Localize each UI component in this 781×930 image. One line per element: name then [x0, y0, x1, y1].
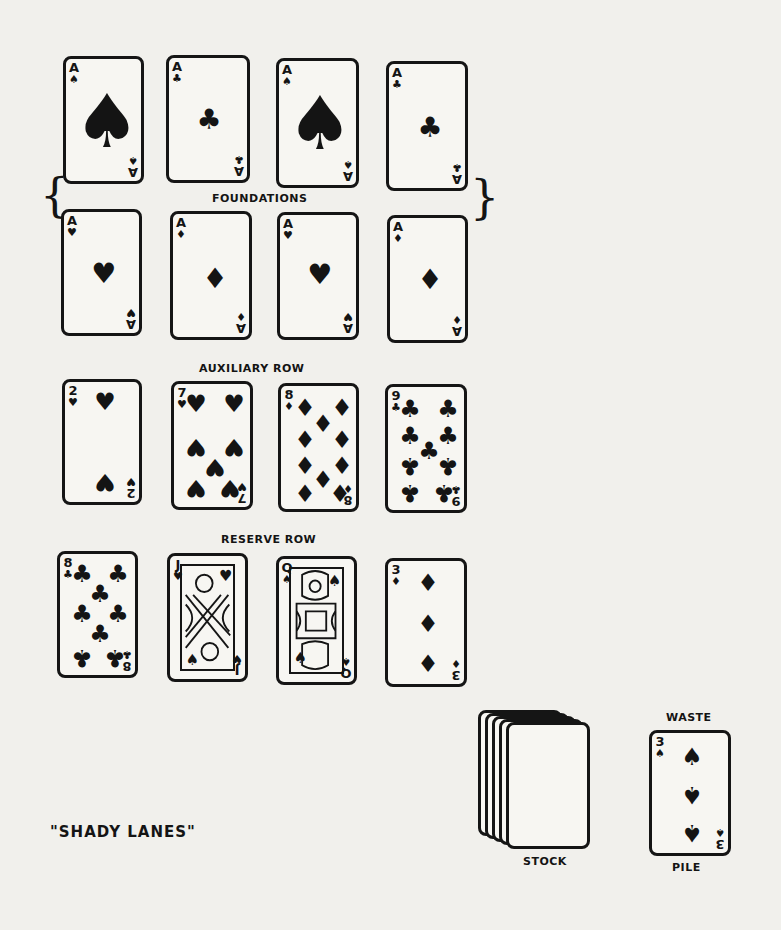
club-icon: ♣	[434, 454, 462, 478]
reserve-row-label: RESERVE ROW	[221, 533, 316, 546]
club-icon: ♣	[68, 646, 96, 670]
svg-text:♥: ♥	[219, 567, 232, 585]
auxiliary-card-2-hearts[interactable]: 2♥ ♥ ♥ 2♥	[62, 379, 142, 505]
diamond-icon: ♦	[291, 482, 319, 506]
foundation-card-ace-hearts-1[interactable]: A♥ ♥ A♥	[61, 209, 142, 336]
stock-label: STOCK	[523, 855, 567, 868]
heart-icon: ♥	[182, 476, 210, 500]
reserve-card-3-diamonds[interactable]: 3♦ ♦ ♦ ♦ 3♦	[385, 558, 467, 687]
club-icon: ♣	[416, 116, 444, 140]
waste-label: WASTE	[666, 711, 712, 724]
club-icon: ♣	[434, 397, 462, 421]
heart-icon: ♥	[220, 392, 248, 416]
game-title: "SHADY LANES"	[50, 823, 196, 841]
club-icon: ♣	[396, 481, 424, 505]
auxiliary-card-7-hearts[interactable]: 7♥ ♥ ♥ ♥ ♥ ♥ ♥ ♥ 7♥	[171, 381, 253, 510]
reserve-card-queen-spades[interactable]: Q♠ ♠ ♠ Q♠	[276, 556, 357, 685]
svg-text:♠: ♠	[294, 649, 307, 667]
reserve-card-jack-hearts[interactable]: J♥ ♥ ♠ J♥	[167, 553, 248, 682]
heart-icon: ♥	[306, 263, 334, 287]
stock-card-top	[506, 722, 590, 849]
diamond-icon: ♦	[328, 428, 356, 452]
foundation-card-ace-hearts-2[interactable]: A♥ ♥ A♥	[277, 212, 359, 340]
pile-label: PILE	[672, 861, 701, 874]
stock-pile[interactable]	[478, 710, 593, 855]
spade-icon: ♠	[678, 783, 706, 807]
spade-icon: ♠	[678, 821, 706, 845]
auxiliary-card-9-clubs[interactable]: 9♣ ♣ ♣ ♣ ♣ ♣ ♣ ♣ ♣ ♣ 9♣	[385, 384, 467, 513]
diamond-icon: ♦	[416, 268, 444, 292]
foundation-card-ace-clubs-1[interactable]: A♣ ♣ A♣	[166, 55, 250, 183]
spade-icon: ♠	[678, 745, 706, 769]
diamond-icon: ♦	[414, 652, 442, 676]
foundation-card-ace-clubs-2[interactable]: A♣ ♣ A♣	[386, 61, 468, 191]
club-icon: ♣	[396, 397, 424, 421]
heart-icon: ♥	[91, 470, 119, 494]
spade-icon: ♠	[280, 86, 359, 160]
diamond-icon: ♦	[201, 267, 229, 291]
auxiliary-card-8-diamonds[interactable]: 8♦ ♦ ♦ ♦ ♦ ♦ ♦ ♦ ♦ ♦ ♦ 8♦	[278, 383, 359, 512]
foundations-label: FOUNDATIONS	[212, 192, 307, 205]
waste-pile-card-3-spades[interactable]: 3♠ ♠ ♠ ♠ 3♠	[649, 730, 731, 856]
queen-face-illustration: ♠ ♠	[289, 567, 344, 674]
diamond-icon: ♦	[414, 612, 442, 636]
diamond-icon: ♦	[414, 571, 442, 595]
diamond-icon: ♦	[291, 428, 319, 452]
svg-text:♠: ♠	[186, 651, 199, 669]
heart-icon: ♥	[90, 262, 118, 286]
foundation-card-ace-diamonds-2[interactable]: A♦ ♦ A♦	[387, 215, 468, 343]
auxiliary-row-label: AUXILIARY ROW	[199, 362, 304, 375]
foundations-right-brace: }	[470, 174, 499, 220]
heart-icon: ♥	[91, 390, 119, 414]
foundation-card-ace-diamonds-1[interactable]: A♦ ♦ A♦	[170, 211, 252, 340]
svg-text:♠: ♠	[328, 572, 341, 590]
club-icon: ♣	[195, 108, 223, 132]
club-icon: ♣	[396, 454, 424, 478]
heart-icon: ♥	[182, 392, 210, 416]
spade-icon: ♠	[67, 84, 144, 158]
reserve-card-8-clubs[interactable]: 8♣ ♣ ♣ ♣ ♣ ♣ ♣ ♣ ♣ 8♣	[57, 551, 138, 678]
foundation-card-ace-spades-1[interactable]: A♠ ♠ A♠	[63, 56, 144, 184]
jack-face-illustration: ♥ ♠	[180, 564, 235, 671]
foundation-card-ace-spades-2[interactable]: A♠ ♠ A♠	[276, 58, 359, 188]
club-icon: ♣	[86, 622, 114, 646]
